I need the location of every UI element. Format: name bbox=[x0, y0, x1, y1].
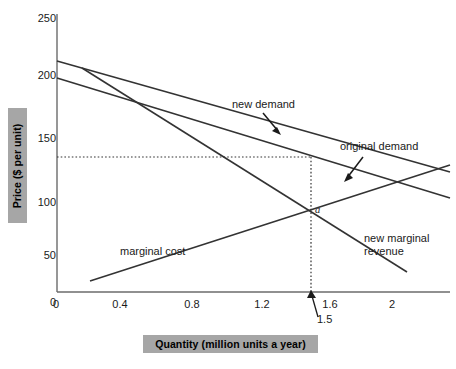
label-new-marginal-revenue-line1: new marginal bbox=[364, 232, 429, 245]
curve-new-demand bbox=[57, 61, 450, 172]
plot-area bbox=[0, 0, 456, 369]
arrow-new-demand-head bbox=[272, 127, 281, 135]
arrow-original-demand-head bbox=[344, 173, 353, 182]
label-new-marginal-revenue-line2: revenue bbox=[364, 245, 404, 258]
label-marginal-cost: marginal cost bbox=[120, 245, 185, 258]
curve-marginal-cost bbox=[90, 165, 450, 281]
label-quantity-callout: 1.5 bbox=[317, 313, 332, 325]
curve-original-demand bbox=[57, 78, 450, 198]
label-new-demand: new demand bbox=[232, 98, 295, 111]
label-point-a: a bbox=[315, 204, 320, 215]
arrow-quantity-callout-head bbox=[307, 290, 316, 298]
label-original-demand: original demand bbox=[340, 140, 418, 153]
chart-figure: Price ($ per unit) Quantity (million uni… bbox=[0, 0, 456, 369]
